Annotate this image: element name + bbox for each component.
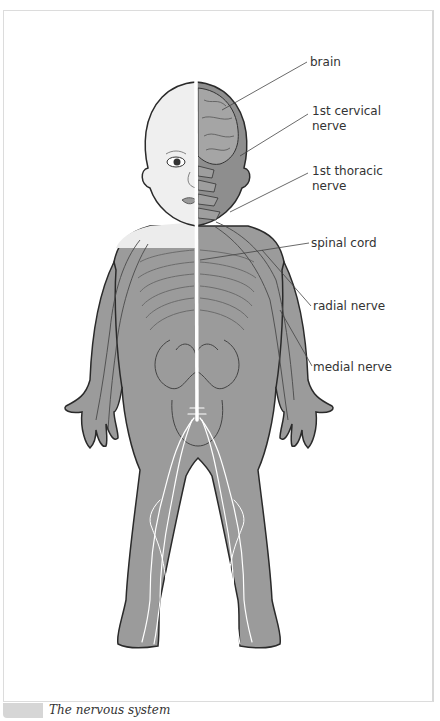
chest-skin xyxy=(116,222,196,248)
label-medial-text: medial nerve xyxy=(313,360,392,374)
label-thoracic-line1: 1st thoracic xyxy=(312,164,383,179)
label-cervical-line2: nerve xyxy=(312,119,381,134)
label-brain-text: brain xyxy=(310,55,341,69)
label-1st-cervical-nerve: 1st cervical nerve xyxy=(312,104,381,134)
label-brain: brain xyxy=(310,55,341,70)
label-thoracic-line2: nerve xyxy=(312,179,383,194)
body-silhouette xyxy=(65,226,333,648)
label-cervical-line1: 1st cervical xyxy=(312,104,381,119)
label-1st-thoracic-nerve: 1st thoracic nerve xyxy=(312,164,383,194)
label-radial-nerve: radial nerve xyxy=(313,299,385,314)
figure-caption: The nervous system xyxy=(49,703,170,718)
label-medial-nerve: medial nerve xyxy=(313,360,392,375)
label-radial-text: radial nerve xyxy=(313,299,385,313)
label-spinal-cord: spinal cord xyxy=(311,236,377,251)
label-spinal-text: spinal cord xyxy=(311,236,377,250)
caption-tab xyxy=(3,703,43,718)
